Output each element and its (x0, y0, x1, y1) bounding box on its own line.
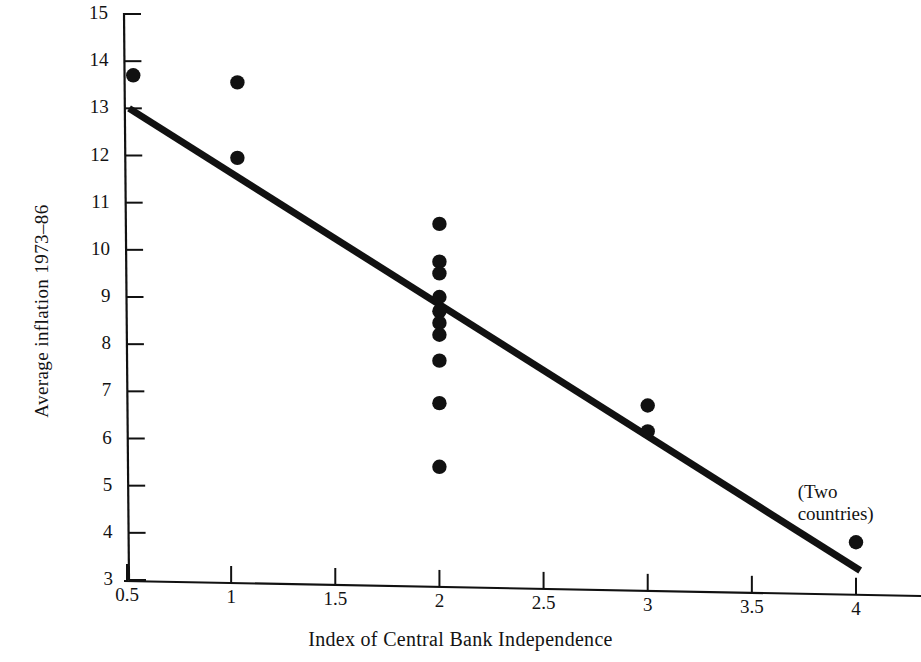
two-countries-annotation: (Two countries) (798, 481, 874, 525)
data-points (126, 68, 863, 549)
x-axis-tick-label: 3.5 (727, 596, 777, 618)
x-axis-tick-label: 4 (831, 598, 881, 620)
data-point (432, 290, 446, 304)
trendline (129, 108, 860, 570)
x-axis-title: Index of Central Bank Independence (0, 628, 921, 651)
annotation-line-2: countries) (798, 503, 874, 525)
data-point (432, 328, 446, 342)
scatter-chart: 3456789101112131415 0.511.522.533.54 Ave… (0, 0, 921, 662)
data-point (432, 266, 446, 280)
y-axis-tick-label: 10 (76, 238, 110, 260)
y-axis-tick-label: 8 (77, 332, 111, 354)
y-axis-tick-label: 4 (79, 521, 113, 543)
data-point (641, 424, 655, 438)
y-axis-tick-label: 9 (77, 285, 111, 307)
x-axis-tick-label: 2.5 (519, 592, 569, 614)
data-point (230, 151, 244, 165)
x-axis-tick-label: 1.5 (310, 588, 360, 610)
y-axis-tick-label: 12 (75, 144, 109, 166)
y-axis-tick-label: 13 (75, 96, 109, 118)
x-axis-tick-label: 1 (206, 586, 256, 608)
y-axis-tick-label: 15 (74, 2, 108, 24)
y-axis-tick-label: 6 (78, 427, 112, 449)
data-point (641, 398, 655, 412)
x-axis-tick-label: 0.5 (102, 584, 152, 606)
y-axis-tick-label: 14 (74, 49, 108, 71)
data-point (432, 217, 446, 231)
x-axis-tick-label: 2 (414, 590, 464, 612)
data-point (432, 460, 446, 474)
data-point (230, 75, 244, 89)
data-point (432, 396, 446, 410)
y-axis-tick-label: 11 (76, 191, 110, 213)
data-point (126, 68, 140, 82)
y-axis-title: Average inflation 1973–86 (31, 121, 53, 501)
plot-area (0, 0, 921, 662)
y-axis-tick-label: 7 (77, 379, 111, 401)
annotation-line-1: (Two (798, 481, 874, 503)
regression-line (129, 108, 860, 570)
data-point (432, 353, 446, 367)
y-axis-tick-label: 5 (78, 474, 112, 496)
x-axis-tick-label: 3 (623, 594, 673, 616)
data-point (849, 535, 863, 549)
